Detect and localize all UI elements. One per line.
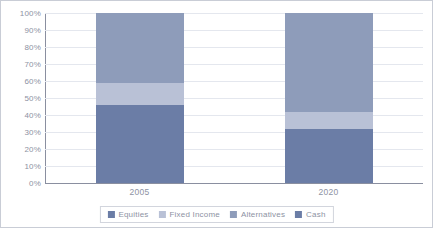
legend-swatch-icon [107, 211, 114, 218]
bar-segment[interactable] [96, 13, 184, 83]
axis-baseline [45, 183, 423, 184]
y-axis-tick-labels: 0%10%20%30%40%50%60%70%80%90%100% [1, 13, 41, 183]
bar-segment[interactable] [285, 13, 373, 112]
legend-item[interactable]: Equities [107, 210, 148, 219]
legend-swatch-icon [230, 211, 237, 218]
bar-segment[interactable] [285, 112, 373, 129]
x-axis-tick-label: 2005 [80, 187, 200, 197]
legend-item[interactable]: Cash [295, 210, 325, 219]
legend-swatch-icon [295, 211, 302, 218]
chart-legend: EquitiesFixed IncomeAlternativesCash [99, 206, 333, 223]
bar-column[interactable] [96, 13, 184, 183]
legend-item[interactable]: Alternatives [230, 210, 285, 219]
legend-label: Fixed Income [169, 210, 219, 219]
y-axis-tick-label: 100% [1, 9, 41, 18]
legend-label: Equities [118, 210, 148, 219]
bar-segment[interactable] [285, 129, 373, 183]
y-axis-tick-label: 60% [1, 77, 41, 86]
legend-swatch-icon [158, 211, 165, 218]
y-axis-tick-label: 70% [1, 60, 41, 69]
y-axis-tick-label: 30% [1, 128, 41, 137]
bar-segment[interactable] [96, 105, 184, 183]
legend-label: Alternatives [241, 210, 285, 219]
y-axis-tick-label: 50% [1, 94, 41, 103]
bar-segment[interactable] [96, 83, 184, 105]
y-axis-tick-label: 40% [1, 111, 41, 120]
chart-container: 0%10%20%30%40%50%60%70%80%90%100% 200520… [0, 0, 433, 228]
plot-area [45, 13, 423, 183]
y-axis-tick-label: 90% [1, 26, 41, 35]
y-axis-tick-label: 10% [1, 162, 41, 171]
legend-item[interactable]: Fixed Income [158, 210, 219, 219]
y-axis-tick-label: 20% [1, 145, 41, 154]
bar-column[interactable] [285, 13, 373, 183]
legend-label: Cash [306, 210, 325, 219]
y-axis-tick-label: 80% [1, 43, 41, 52]
y-axis-tick-label: 0% [1, 179, 41, 188]
x-axis-tick-label: 2020 [269, 187, 389, 197]
